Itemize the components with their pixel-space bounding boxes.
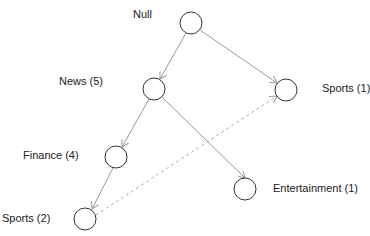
label-null: Null [133, 8, 152, 20]
edge-news-finance [122, 99, 149, 147]
edge-finance-sports2 [92, 168, 113, 209]
label-sports2: Sports (2) [2, 212, 50, 224]
edge-null-sports1 [200, 30, 277, 83]
node-news [143, 78, 165, 100]
node-entertainment [234, 178, 256, 200]
node-sports2 [74, 208, 96, 230]
node-finance [105, 146, 127, 168]
label-news: News (5) [59, 75, 103, 87]
edge-null-news [160, 33, 186, 79]
label-entertainment: Entertainment (1) [273, 182, 358, 194]
label-sports1: Sports (1) [322, 82, 370, 94]
edge-news-entertainment [162, 97, 245, 178]
node-sports1 [275, 79, 297, 101]
label-finance: Finance (4) [23, 149, 79, 161]
node-null [180, 12, 202, 34]
